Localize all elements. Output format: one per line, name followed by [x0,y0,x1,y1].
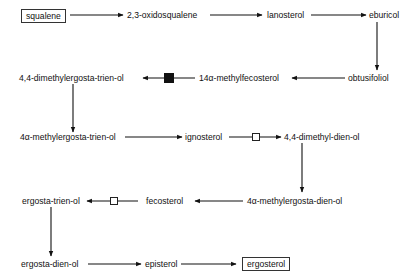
node-dimethyldienol: 4,4-dimethyl-dien-ol [284,132,359,142]
node-oxidosqualene: 2,3-oxidosqualene [127,10,197,20]
node-ergosterol: ergosterol [242,257,290,271]
node-ergostatrienol: ergosta-trien-ol [22,196,80,206]
node-episterol: episterol [145,259,177,269]
node-methylergostatrienol: 4α-methylergosta-trien-ol [20,132,116,142]
node-methylfecosterol: 14α-methylfecosterol [199,73,279,83]
node-lanosterol: lanosterol [267,10,304,20]
open-square-marker [252,133,260,141]
node-ignosterol: ignosterol [185,132,222,142]
node-ergostadienol: ergosta-dien-ol [21,259,78,269]
filled-square-marker [164,73,174,83]
node-fecosterol: fecosterol [146,196,183,206]
node-methylergostadienol: 4α-methylergosta-dien-ol [247,196,342,206]
node-squalene: squalene [21,9,66,23]
node-obtusifoliol: obtusifoliol [348,73,389,83]
node-eburicol: eburicol [369,10,399,20]
open-square-marker [110,197,118,205]
node-dimethylergostatrienol: 4,4-dimethylergosta-trien-ol [19,73,124,83]
